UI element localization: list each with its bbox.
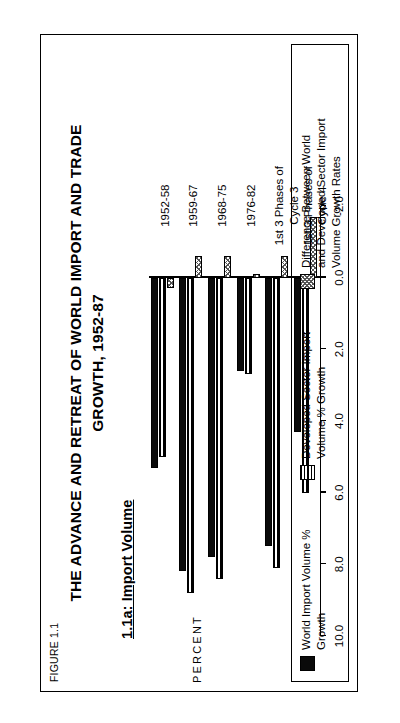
category-label: 1976-82 — [244, 159, 258, 251]
figure-number-label: FIGURE 1.1 — [48, 622, 60, 681]
bar-checker — [167, 277, 174, 288]
value-axis-title: PERCENT — [191, 643, 203, 683]
bar-solid — [179, 277, 186, 571]
category-label: 1952-58 — [158, 159, 172, 251]
bar-checker — [224, 256, 231, 278]
bar-checker — [281, 256, 288, 278]
bar-striped — [245, 277, 252, 374]
chart-title-line-2: GROWTH, 1952-87 — [89, 294, 106, 432]
figure-page: FIGURE 1.1 THE ADVANCE AND RETREAT OF WO… — [0, 0, 400, 723]
bar-striped — [187, 277, 194, 592]
bar-solid — [265, 277, 272, 546]
legend-swatch-icon — [300, 656, 315, 671]
category-label: 1968-75 — [215, 159, 229, 251]
bar-solid — [208, 277, 215, 557]
bar-solid — [151, 277, 158, 467]
bar-solid — [237, 277, 244, 370]
legend-swatch-icon — [300, 465, 315, 480]
panel-subtitle: 1.1a: Import Volume — [119, 499, 135, 638]
category-label: 1959-67 — [186, 159, 200, 251]
chart-title-line-1: THE ADVANCE AND RETREAT OF WORLD IMPORT … — [67, 124, 84, 601]
figure-border-box: FIGURE 1.1 THE ADVANCE AND RETREAT OF WO… — [40, 34, 358, 692]
legend-item-difference: Difference Between World and Developed S… — [299, 118, 344, 289]
legend-swatch-icon — [300, 274, 315, 289]
legend-item-developed-sector-import-volume: Developed Sector Import Volume % Growth — [299, 309, 344, 480]
rotated-figure-wrapper: FIGURE 1.1 THE ADVANCE AND RETREAT OF WO… — [40, 32, 360, 692]
legend-item-world-import-volume: World Import Volume % Growth — [299, 500, 344, 671]
bar-striped — [216, 277, 223, 578]
legend-label: Difference Between World and Developed S… — [299, 118, 344, 268]
bar-striped — [273, 277, 280, 567]
bar-checker — [253, 274, 260, 278]
bar-checker — [195, 256, 202, 278]
legend: World Import Volume % GrowthDeveloped Se… — [291, 44, 349, 682]
bar-striped — [159, 277, 166, 456]
chart-title: THE ADVANCE AND RETREAT OF WORLD IMPORT … — [65, 35, 110, 691]
legend-label: Developed Sector Import Volume % Growth — [299, 309, 329, 459]
legend-label: World Import Volume % Growth — [299, 500, 329, 650]
